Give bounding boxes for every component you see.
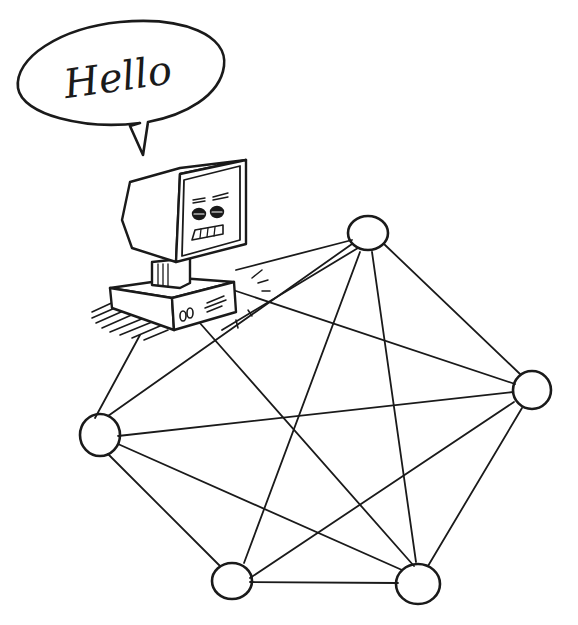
node-bottom-left bbox=[212, 563, 252, 599]
node-bottom-right bbox=[396, 564, 440, 604]
computer bbox=[92, 160, 270, 340]
speech-bubble-text: Hello bbox=[60, 47, 175, 108]
node-left bbox=[80, 414, 120, 456]
network-illustration: Hello bbox=[0, 0, 578, 625]
speech-bubble: Hello bbox=[18, 21, 224, 155]
node-top bbox=[348, 216, 388, 250]
node-right bbox=[513, 371, 551, 409]
